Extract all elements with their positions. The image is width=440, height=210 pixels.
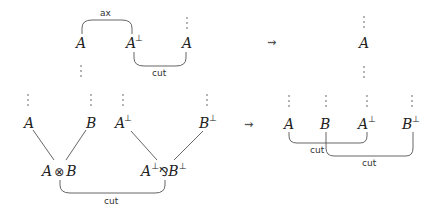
perp-sup: ⊥: [209, 113, 217, 123]
vdots-icon: [80, 65, 82, 77]
cut-link: [60, 180, 165, 193]
vdots-icon: [366, 95, 368, 107]
cut-label: cut: [152, 68, 167, 78]
vdots-icon: [325, 95, 327, 107]
axiom-label: ax: [100, 8, 112, 18]
perp-sup: ⊥: [135, 33, 143, 43]
cut-link: [134, 52, 186, 66]
formula-A: A: [282, 116, 294, 132]
perp-sup: ⊥: [368, 114, 376, 124]
tensor-formula: A⊗B: [40, 163, 76, 179]
proof-net-diagram: ax A A ⊥ A cut ⇝ A: [0, 0, 440, 210]
vdots-icon: [186, 17, 188, 29]
premise-A: A: [22, 115, 34, 131]
premise-B-perp: B: [198, 115, 209, 131]
formula-A-perp: A: [356, 116, 368, 132]
vdots-icon: [206, 94, 208, 106]
formula-A-right: A: [180, 35, 192, 51]
vdots-icon: [363, 66, 365, 78]
vdots-icon: [90, 94, 92, 106]
bottom-left-proof-net: A B A ⊥ B ⊥ A⊗B A⊥⅋B⊥ cut: [22, 94, 217, 206]
tensor-edge-left: [33, 130, 54, 160]
axiom-link: [82, 20, 132, 34]
vdots-icon: [122, 94, 124, 106]
bottom-right-result: A B A ⊥ B ⊥ cut cut: [282, 95, 420, 168]
formula-A: A: [74, 35, 86, 51]
reduces-to-arrow-icon: ⇝: [244, 118, 253, 131]
cut-link-a: [289, 132, 367, 143]
vdots-icon: [288, 95, 290, 107]
perp-sup: ⊥: [124, 113, 132, 123]
par-edge-left: [131, 131, 157, 160]
formula-A: A: [357, 35, 369, 51]
vdots-icon: [363, 16, 365, 28]
cut-label: cut: [362, 158, 377, 168]
reduces-to-arrow-icon: ⇝: [267, 36, 276, 49]
formula-B-perp: B: [401, 116, 412, 132]
cut-label: cut: [104, 196, 119, 206]
cut-label: cut: [310, 145, 325, 155]
vdots-icon: [27, 94, 29, 106]
perp-sup: ⊥: [412, 114, 420, 124]
par-edge-right: [174, 131, 203, 160]
cut-link-b: [326, 132, 413, 156]
tensor-edge-right: [66, 130, 86, 160]
top-right-result: A: [357, 16, 369, 78]
top-left-proof-net: ax A A ⊥ A cut: [74, 8, 192, 78]
premise-B: B: [85, 115, 96, 131]
vdots-icon: [411, 95, 413, 107]
formula-B: B: [319, 116, 330, 132]
par-formula: A⊥⅋B⊥: [139, 161, 187, 179]
